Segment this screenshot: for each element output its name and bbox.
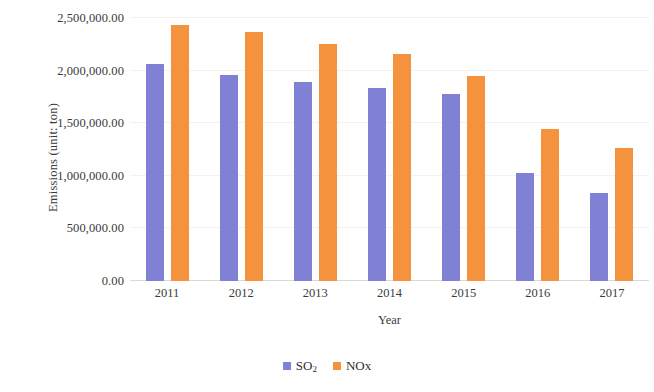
legend-swatch-icon bbox=[283, 362, 291, 370]
x-tick-label-2017: 2017 bbox=[577, 286, 647, 301]
bar-so2-2016[interactable] bbox=[516, 173, 534, 281]
y-tick-label: 0.00 bbox=[4, 274, 124, 289]
bar-nox-2011[interactable] bbox=[171, 25, 189, 281]
legend-label: NOx bbox=[346, 358, 371, 374]
x-tick-label-2015: 2015 bbox=[429, 286, 499, 301]
legend-item-so2[interactable]: SO2 bbox=[283, 358, 317, 374]
y-tick-label: 1,500,000.00 bbox=[4, 116, 124, 131]
x-tick-label-2011: 2011 bbox=[132, 286, 202, 301]
x-tick-label-2012: 2012 bbox=[206, 286, 276, 301]
x-tick-label-2013: 2013 bbox=[280, 286, 350, 301]
x-axis-title: Year bbox=[130, 313, 649, 328]
y-tick-label: 2,500,000.00 bbox=[4, 11, 124, 26]
x-tick-label-2014: 2014 bbox=[355, 286, 425, 301]
bar-group bbox=[516, 18, 559, 281]
bar-nox-2012[interactable] bbox=[245, 32, 263, 281]
bar-so2-2017[interactable] bbox=[590, 193, 608, 281]
bar-nox-2013[interactable] bbox=[319, 44, 337, 281]
legend-swatch-icon bbox=[333, 362, 341, 370]
x-axis-tick-labels: 2011201220132014201520162017 bbox=[130, 286, 649, 306]
bar-nox-2017[interactable] bbox=[615, 148, 633, 281]
y-tick-label: 1,000,000.00 bbox=[4, 168, 124, 183]
y-tick-label: 500,000.00 bbox=[4, 221, 124, 236]
bar-so2-2012[interactable] bbox=[220, 75, 238, 281]
bar-group bbox=[442, 18, 485, 281]
bar-group bbox=[146, 18, 189, 281]
chart-legend: SO2NOx bbox=[0, 358, 654, 374]
bar-nox-2015[interactable] bbox=[467, 76, 485, 281]
bar-nox-2014[interactable] bbox=[393, 54, 411, 281]
legend-label: SO2 bbox=[296, 358, 317, 374]
y-axis-tick-labels: 0.00500,000.001,000,000.001,500,000.002,… bbox=[0, 18, 124, 281]
y-tick-label: 2,000,000.00 bbox=[4, 63, 124, 78]
legend-item-nox[interactable]: NOx bbox=[333, 358, 371, 374]
bar-so2-2013[interactable] bbox=[294, 82, 312, 281]
bar-so2-2011[interactable] bbox=[146, 64, 164, 281]
bar-group bbox=[294, 18, 337, 281]
emissions-bar-chart: Emissions (unit: ton) 0.00500,000.001,00… bbox=[0, 0, 654, 392]
plot-area bbox=[130, 18, 649, 281]
bar-so2-2014[interactable] bbox=[368, 88, 386, 281]
bar-group bbox=[590, 18, 633, 281]
x-tick-label-2016: 2016 bbox=[503, 286, 573, 301]
bar-group bbox=[220, 18, 263, 281]
bar-group bbox=[368, 18, 411, 281]
bar-so2-2015[interactable] bbox=[442, 94, 460, 281]
bar-nox-2016[interactable] bbox=[541, 129, 559, 281]
